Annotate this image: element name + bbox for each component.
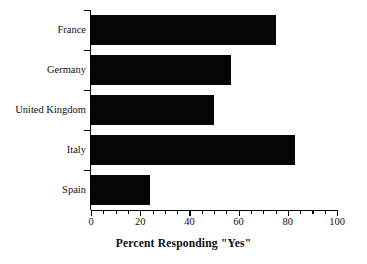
x-axis-minor-tick bbox=[202, 210, 203, 214]
y-axis-label-spain: Spain bbox=[0, 184, 93, 195]
bar-fill bbox=[91, 175, 150, 205]
y-axis-label-united-kingdom: United Kingdom bbox=[0, 104, 93, 115]
x-axis-tick-label: 80 bbox=[268, 216, 308, 227]
x-axis-minor-tick bbox=[276, 210, 277, 214]
y-axis-label-italy: Italy bbox=[0, 144, 93, 155]
x-axis-tick-label: 60 bbox=[219, 216, 259, 227]
x-axis-tick-label: 0 bbox=[71, 216, 111, 227]
x-axis-minor-tick bbox=[226, 210, 227, 214]
y-axis-tick bbox=[84, 130, 91, 131]
x-axis-minor-tick bbox=[325, 210, 326, 214]
bar-fill bbox=[91, 15, 276, 45]
y-axis-tick bbox=[84, 10, 91, 11]
x-axis-minor-tick bbox=[263, 210, 264, 214]
bar-united-kingdom bbox=[91, 95, 214, 125]
x-axis-minor-tick bbox=[165, 210, 166, 214]
bar-france bbox=[91, 15, 276, 45]
bar-spain bbox=[91, 175, 150, 205]
x-axis-minor-tick bbox=[251, 210, 252, 214]
x-axis-minor-tick bbox=[103, 210, 104, 214]
bar-germany bbox=[91, 55, 231, 85]
y-axis-tick bbox=[84, 50, 91, 51]
bar-fill bbox=[91, 95, 214, 125]
x-axis-tick-label: 20 bbox=[120, 216, 160, 227]
x-axis-minor-tick bbox=[177, 210, 178, 214]
y-axis-label-germany: Germany bbox=[0, 64, 93, 75]
y-axis-tick bbox=[84, 170, 91, 171]
x-axis-tick-label: 100 bbox=[317, 216, 357, 227]
x-axis-minor-tick bbox=[153, 210, 154, 214]
bar-fill bbox=[91, 55, 231, 85]
bar-chart-figure: FranceGermanyUnited KingdomItalySpain 02… bbox=[0, 0, 367, 264]
bar-italy bbox=[91, 135, 295, 165]
x-axis-minor-tick bbox=[214, 210, 215, 214]
x-axis-minor-tick bbox=[116, 210, 117, 214]
x-axis-minor-tick bbox=[300, 210, 301, 214]
y-axis-tick bbox=[84, 90, 91, 91]
x-axis-tick-label: 40 bbox=[169, 216, 209, 227]
y-axis-label-france: France bbox=[0, 24, 93, 35]
x-axis-minor-tick bbox=[312, 210, 313, 214]
x-axis-title: Percent Responding "Yes" bbox=[0, 237, 367, 249]
bar-fill bbox=[91, 135, 295, 165]
x-axis-minor-tick bbox=[128, 210, 129, 214]
